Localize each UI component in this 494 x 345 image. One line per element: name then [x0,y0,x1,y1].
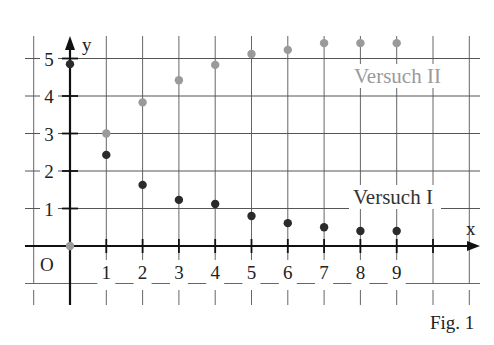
data-point [102,129,110,137]
series-label-versuch-ii: Versuch II [354,64,441,88]
x-tick-label: 3 [174,262,184,283]
x-tick-label: 6 [283,262,293,283]
data-point [66,242,74,250]
data-point [175,76,183,84]
data-point [211,61,219,69]
data-point [102,151,110,159]
data-point [247,50,255,58]
y-tick-label: 4 [44,86,54,107]
y-tick-label: 5 [44,49,54,70]
x-tick-label: 2 [138,262,148,283]
x-axis-label: x [466,218,476,239]
y-tick-label: 1 [44,199,54,220]
y-tick-label: 3 [44,124,54,145]
data-point [138,181,146,189]
x-tick-label: 8 [356,262,366,283]
y-axis-label: y [82,34,92,55]
data-point [356,227,364,235]
x-tick-label: 7 [319,262,329,283]
data-point [356,39,364,47]
data-point [66,60,74,68]
data-point [284,46,292,54]
y-tick-label: 2 [44,161,54,182]
data-point [393,39,401,47]
origin-label: O [40,254,54,275]
series-label-versuch-i: Versuch I [353,185,433,209]
x-tick-label: 5 [247,262,257,283]
data-point [138,98,146,106]
x-tick-label: 1 [102,262,112,283]
data-point [175,196,183,204]
x-tick-label: 9 [392,262,402,283]
figure-caption: Fig. 1 [430,312,474,333]
x-tick-label: 4 [210,262,220,283]
data-point [393,227,401,235]
data-point [247,212,255,220]
data-point [320,223,328,231]
x-axis-arrow-icon [467,241,480,251]
data-point [320,39,328,47]
chart: 12345678912345 x y O Versuch II Versuch … [0,0,494,345]
data-point [211,200,219,208]
y-axis-arrow-icon [65,36,75,50]
data-point [284,219,292,227]
